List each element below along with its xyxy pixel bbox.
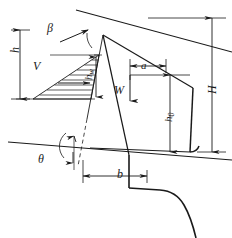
diagram-canvas <box>0 0 232 238</box>
label-h0: h0 <box>163 113 176 122</box>
label-W: W <box>114 84 124 96</box>
label-h0-sub: 0 <box>167 113 176 117</box>
label-a: a <box>141 60 147 71</box>
label-V: V <box>33 60 40 72</box>
retaining-wall-diagram: h β V hw a W h0 H θ b <box>0 0 232 238</box>
label-h: h <box>9 47 21 53</box>
ground-surface-line <box>76 10 232 52</box>
label-beta: β <box>47 22 53 34</box>
label-hw-base: h <box>82 75 94 81</box>
label-h0-base: h <box>162 117 174 123</box>
label-theta: θ <box>38 153 44 165</box>
label-hw-sub: w <box>87 69 96 74</box>
dimension-line-b <box>83 160 147 183</box>
angle-arc-beta <box>60 30 92 48</box>
angle-arc-theta <box>59 133 76 170</box>
label-b: b <box>117 168 123 180</box>
dimension-line-a <box>130 59 190 80</box>
label-hw: hw <box>83 69 96 80</box>
label-H: H <box>206 85 218 94</box>
dimension-line-h <box>11 30 30 99</box>
footing-step-shape <box>129 146 199 238</box>
